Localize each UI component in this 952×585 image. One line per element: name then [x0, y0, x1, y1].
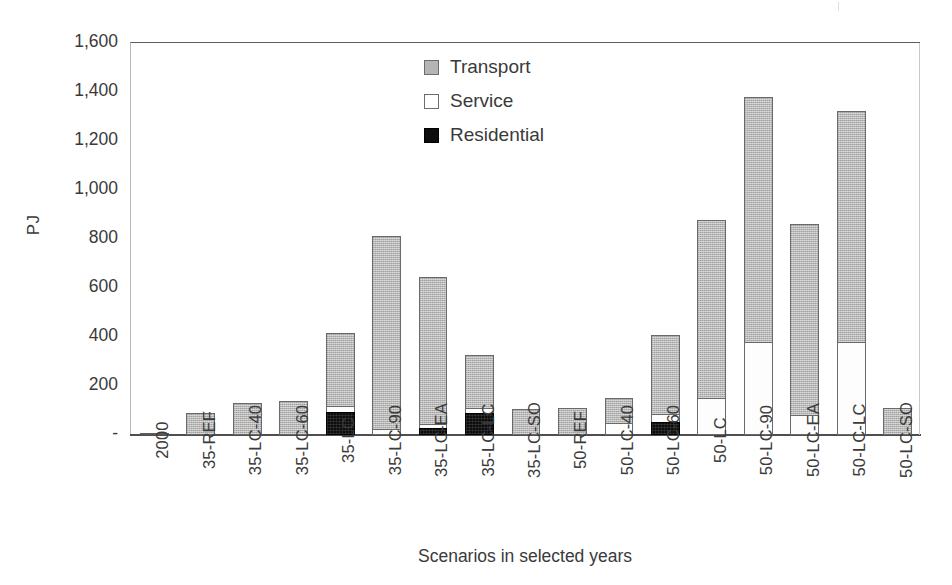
x-axis-tick-label: 35-LC-60: [293, 405, 312, 475]
y-axis-tick-labels: 1,6001,4001,2001,000800600400200-: [26, 0, 118, 585]
x-axis-tick-label: 50-LC-60: [664, 405, 683, 475]
legend-item[interactable]: Residential: [424, 118, 544, 152]
top-artifact-mark: [838, 2, 839, 11]
legend-item[interactable]: Service: [424, 84, 544, 118]
x-axis-tick-label: 50-LC-SO: [897, 402, 916, 478]
x-axis-tick-label: 50-LC-LC: [850, 403, 869, 476]
x-axis-tick-label: 35-LC-LC: [479, 403, 498, 476]
x-tick-slot: 50-LC-LC: [827, 434, 873, 534]
y-axis-tick-label: 1,200: [26, 131, 118, 149]
bar-slot: [875, 43, 921, 435]
x-tick-slot: 35-LC: [316, 434, 362, 534]
x-axis-tick-label: 35-LC-EA: [432, 403, 451, 477]
legend-item-label: Residential: [450, 124, 544, 146]
bar-segment-transport: [372, 236, 401, 430]
bar-slot: [549, 43, 595, 435]
bar-slot: [828, 43, 874, 435]
stacked-bar[interactable]: [697, 221, 726, 435]
bar-segment-transport: [326, 333, 355, 407]
x-axis-tick-label: 35-LC: [339, 417, 358, 463]
bar-segment-transport: [790, 224, 819, 416]
x-tick-slot: 50-LC-EA: [781, 434, 827, 534]
y-axis-tick-label: 1,600: [26, 33, 118, 51]
x-tick-slot: 50-REF: [548, 434, 594, 534]
bar-segment-transport: [697, 220, 726, 399]
x-tick-slot: 50-LC-40: [595, 434, 641, 534]
bar-slot: [782, 43, 828, 435]
legend-item-label: Transport: [450, 56, 531, 78]
x-tick-slot: 35-LC-EA: [409, 434, 455, 534]
bar-slot: [596, 43, 642, 435]
x-tick-slot: 35-LC-SO: [502, 434, 548, 534]
service-swatch-icon: [424, 94, 439, 109]
bar-slot: [224, 43, 270, 435]
bar-slot: [735, 43, 781, 435]
residential-swatch-icon: [424, 128, 439, 143]
y-axis-tick-label: 600: [26, 278, 118, 296]
y-axis-tick-label: 200: [26, 376, 118, 394]
x-axis-tick-label: 35-LC-40: [246, 405, 265, 475]
bar-segment-transport: [744, 97, 773, 343]
y-axis-tick-label: 400: [26, 327, 118, 345]
x-axis-tick-label: 50-LC-90: [757, 405, 776, 475]
bar-segment-transport: [465, 355, 494, 409]
legend-item[interactable]: Transport: [424, 50, 544, 84]
transport-swatch-icon: [424, 60, 439, 75]
y-axis-tick-label: 800: [26, 229, 118, 247]
bar-slot: [270, 43, 316, 435]
x-tick-slot: 2000: [130, 434, 176, 534]
x-tick-slot: 35-LC-90: [362, 434, 408, 534]
x-tick-slot: 50-LC-SO: [874, 434, 920, 534]
x-tick-slot: 50-LC: [688, 434, 734, 534]
x-axis-tick-label: 50-LC: [711, 417, 730, 463]
x-axis-tick-label: 50-LC-40: [618, 405, 637, 475]
stacked-bar[interactable]: [744, 98, 773, 435]
bar-slot: [177, 43, 223, 435]
stacked-bar-chart: PJ 1,6001,4001,2001,000800600400200- 200…: [0, 0, 952, 585]
x-axis-tick-label: 35-LC-SO: [525, 402, 544, 478]
stacked-bar[interactable]: [837, 112, 866, 435]
bar-slot: [642, 43, 688, 435]
legend: TransportServiceResidential: [424, 50, 544, 152]
legend-item-label: Service: [450, 90, 513, 112]
bar-segment-transport: [837, 111, 866, 343]
x-tick-slot: 50-LC-60: [641, 434, 687, 534]
x-tick-slot: 35-REF: [176, 434, 222, 534]
y-axis-tick-label: 1,400: [26, 82, 118, 100]
x-tick-slot: 35-LC-40: [223, 434, 269, 534]
x-axis-tick-label: 50-REF: [571, 411, 590, 469]
bar-segment-transport: [651, 335, 680, 415]
x-axis-tick-label: 35-REF: [200, 411, 219, 469]
x-tick-slot: 50-LC-90: [734, 434, 780, 534]
x-axis-title: Scenarios in selected years: [130, 546, 920, 567]
x-axis-tick-label: 35-LC-90: [386, 405, 405, 475]
bar-slot: [131, 43, 177, 435]
x-axis-tick-label: 50-LC-EA: [804, 403, 823, 477]
x-tick-slot: 35-LC-LC: [455, 434, 501, 534]
bar-slot: [317, 43, 363, 435]
y-axis-tick-label: -: [26, 425, 118, 443]
x-tick-slot: 35-LC-60: [269, 434, 315, 534]
x-axis-tick-labels: 200035-REF35-LC-4035-LC-6035-LC35-LC-903…: [130, 434, 920, 534]
bar-slot: [363, 43, 409, 435]
x-axis-tick-label: 2000: [153, 421, 172, 459]
bar-slot: [689, 43, 735, 435]
y-axis-tick-label: 1,000: [26, 180, 118, 198]
